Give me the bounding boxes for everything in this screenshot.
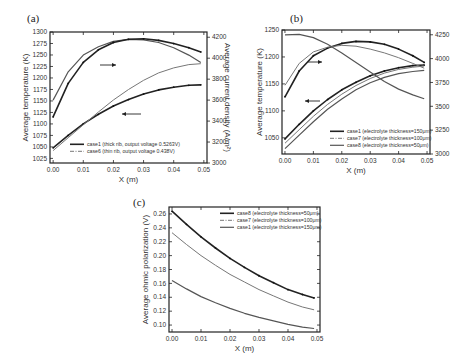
y-tick-label: 1175	[33, 86, 47, 93]
y-tick-label: 1125	[33, 109, 47, 116]
arrow-head-icon	[318, 60, 322, 64]
y-tick-label: 1150	[265, 80, 279, 87]
y-tick-label: 0.26	[153, 210, 166, 217]
x-tick-label: 0.01	[195, 335, 208, 342]
arrow-head-icon	[112, 63, 116, 67]
x-tick-label: 0.04	[392, 157, 405, 164]
y-tick-label: 1050	[33, 143, 48, 150]
panel-label: (b)	[290, 12, 303, 25]
y-tick-label: 0.16	[153, 280, 166, 287]
x-tick-label: 0.02	[224, 335, 237, 342]
x-tick-label: 0.01	[77, 166, 90, 173]
x-tick-label: 0.04	[282, 335, 295, 342]
x-axis-label: X (m)	[346, 166, 366, 175]
x-tick-label: 0.00	[166, 335, 179, 342]
y2-tick-label: 3000	[435, 150, 450, 157]
x-tick-label: 0.04	[167, 166, 180, 173]
x-tick-label: 0.05	[311, 335, 324, 342]
y-tick-label: 1225	[33, 63, 48, 70]
y-tick-label: 1100	[265, 107, 279, 114]
y-tick-label: 1250	[33, 51, 48, 58]
legend-entry: case1 (thick rib, output voltage 0.5263V…	[87, 141, 180, 147]
y-tick-label: 0.14	[153, 293, 166, 300]
y-tick-label: 1300	[33, 28, 48, 35]
y-tick-label: 0.10	[153, 321, 166, 328]
legend-entry: case6 (thin rib, output voltage 0.438V)	[87, 148, 175, 154]
y-tick-label: 1150	[33, 97, 47, 104]
y-tick-label: 1200	[265, 53, 280, 60]
y-tick-label: 0.18	[153, 266, 166, 273]
y-tick-label: 0.24	[153, 224, 166, 231]
y2-tick-label: 4000	[435, 55, 450, 62]
y-tick-label: 1100	[33, 120, 47, 127]
chart-panel-0: (a)0.000.010.020.030.040.05X (m)10251050…	[21, 12, 232, 184]
y2-tick-label: 3750	[435, 79, 450, 86]
y-tick-label: 1250	[265, 26, 280, 33]
y-tick-label: 1075	[33, 132, 48, 139]
legend-entry: case8 (electrolyte thickness=50μm)	[347, 142, 429, 148]
y2-axis-label: Average current density (A/m²)	[223, 43, 232, 152]
y-tick-label: 1275	[33, 40, 48, 47]
y-axis-label: Average temperature (K)	[21, 53, 30, 141]
series-line	[172, 281, 314, 329]
y2-tick-label: 3000	[212, 159, 227, 166]
x-tick-label: 0.03	[137, 166, 150, 173]
y-tick-label: 1050	[265, 134, 280, 141]
x-tick-label: 0.02	[107, 166, 120, 173]
x-axis-label: X (m)	[235, 344, 255, 353]
legend-entry: case7 (electrolyte thickness=100μm)	[347, 135, 432, 141]
legend-entry: case1 (electrolyte thickness=150μm)	[237, 224, 322, 230]
x-tick-label: 0.01	[307, 157, 320, 164]
series-line	[172, 233, 314, 310]
y-tick-label: 1025	[33, 155, 48, 162]
figure-canvas: (a)0.000.010.020.030.040.05X (m)10251050…	[0, 0, 465, 364]
y2-tick-label: 4200	[212, 33, 227, 40]
chart-panel-2: (c)0.000.010.020.030.040.05X (m)0.100.12…	[133, 196, 324, 353]
x-tick-label: 0.00	[47, 166, 60, 173]
y2-tick-label: 4250	[435, 31, 450, 38]
legend-entry: case1 (electrolyte thickness=150μm)	[347, 128, 432, 134]
y2-tick-label: 3250	[435, 126, 450, 133]
x-tick-label: 0.03	[253, 335, 266, 342]
series-line	[53, 85, 201, 148]
panel-label: (a)	[27, 12, 40, 25]
x-tick-label: 0.02	[335, 157, 348, 164]
legend-entry: case7 (electrolyte thickness=100μm)	[237, 217, 322, 223]
arrow-head-icon	[305, 99, 309, 103]
y-tick-label: 0.12	[153, 307, 166, 314]
x-tick-label: 0.03	[364, 157, 377, 164]
y-tick-label: 0.20	[153, 252, 166, 259]
panel-label: (c)	[133, 196, 146, 209]
series-line	[53, 64, 201, 151]
x-tick-label: 0.00	[279, 157, 292, 164]
y-axis-label: Average temperature (K)	[255, 48, 264, 136]
y-tick-label: 1200	[33, 74, 48, 81]
y-axis-label: Average ohmic polarization (V)	[141, 215, 150, 325]
arrow-head-icon	[122, 112, 126, 116]
x-tick-label: 0.05	[421, 157, 434, 164]
y2-tick-label: 3500	[435, 103, 450, 110]
y-tick-label: 0.22	[153, 238, 166, 245]
x-axis-label: X (m)	[119, 175, 139, 184]
x-tick-label: 0.05	[198, 166, 211, 173]
legend-entry: case8 (electrolyte thickness=50μm)	[237, 210, 319, 216]
chart-panel-1: (b)0.000.010.020.030.040.05X (m)10501100…	[255, 12, 450, 175]
